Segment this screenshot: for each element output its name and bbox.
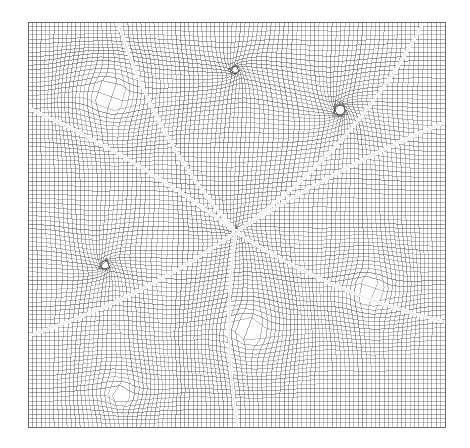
mesh-gridline [28,203,445,210]
mesh-gridline [312,22,324,427]
mesh-gridline [171,22,176,427]
mesh-gridline [28,37,445,42]
mesh-gridline [183,22,189,427]
mesh-gridline [44,22,46,427]
mesh-plot [0,0,470,448]
mesh-gridline [338,22,351,427]
mesh-gridline [48,22,52,427]
mesh-gridline [331,22,348,427]
mesh-gridline [28,193,445,200]
mesh-gridline [28,377,445,387]
mesh-gridline [28,342,445,354]
mesh-gridline [308,22,320,427]
mesh-gridline [187,22,194,427]
mesh-gridline [40,22,41,427]
mesh-gridline [175,22,181,427]
mesh-gridline [28,207,445,214]
figure-root: Dense structured quadrilateral computati… [0,0,470,448]
mesh-gridline [28,350,445,362]
mesh-gridline [28,198,445,205]
mesh-gridline [28,30,445,32]
mesh-gridline [28,346,445,358]
mesh-gridline [190,22,198,427]
mesh-gridline [28,34,445,37]
mesh-gridline [28,188,445,195]
mesh-gridline [28,119,445,137]
